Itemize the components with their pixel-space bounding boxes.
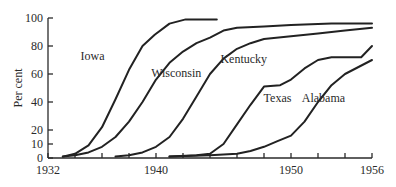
series-group (63, 19, 372, 156)
series-label-alabama: Alabama (302, 91, 346, 105)
x-axis: 1932194019501956 (36, 153, 384, 177)
y-tick-label: 60 (31, 67, 43, 81)
series-label-kentucky: Kentucky (220, 52, 267, 66)
x-tick-label: 1932 (36, 163, 60, 177)
series-labels: IowaWisconsinKentuckyTexasAlabama (81, 49, 346, 105)
y-axis: 01020406080100 (25, 11, 53, 165)
y-axis-title: Per cent (11, 68, 25, 108)
y-tick-label: 40 (31, 95, 43, 109)
chart: 01020406080100 1932194019501956 Per cent… (0, 0, 396, 187)
series-line-iowa (63, 19, 217, 156)
series-label-wisconsin: Wisconsin (151, 66, 201, 80)
x-tick-label: 1956 (360, 163, 384, 177)
y-tick-label: 80 (31, 39, 43, 53)
series-label-iowa: Iowa (81, 49, 106, 63)
y-tick-label: 10 (31, 137, 43, 151)
y-tick-label: 100 (25, 11, 43, 25)
y-tick-label: 20 (31, 123, 43, 137)
series-label-texas: Texas (264, 91, 292, 105)
x-tick-label: 1940 (144, 163, 168, 177)
x-tick-label: 1950 (279, 163, 303, 177)
